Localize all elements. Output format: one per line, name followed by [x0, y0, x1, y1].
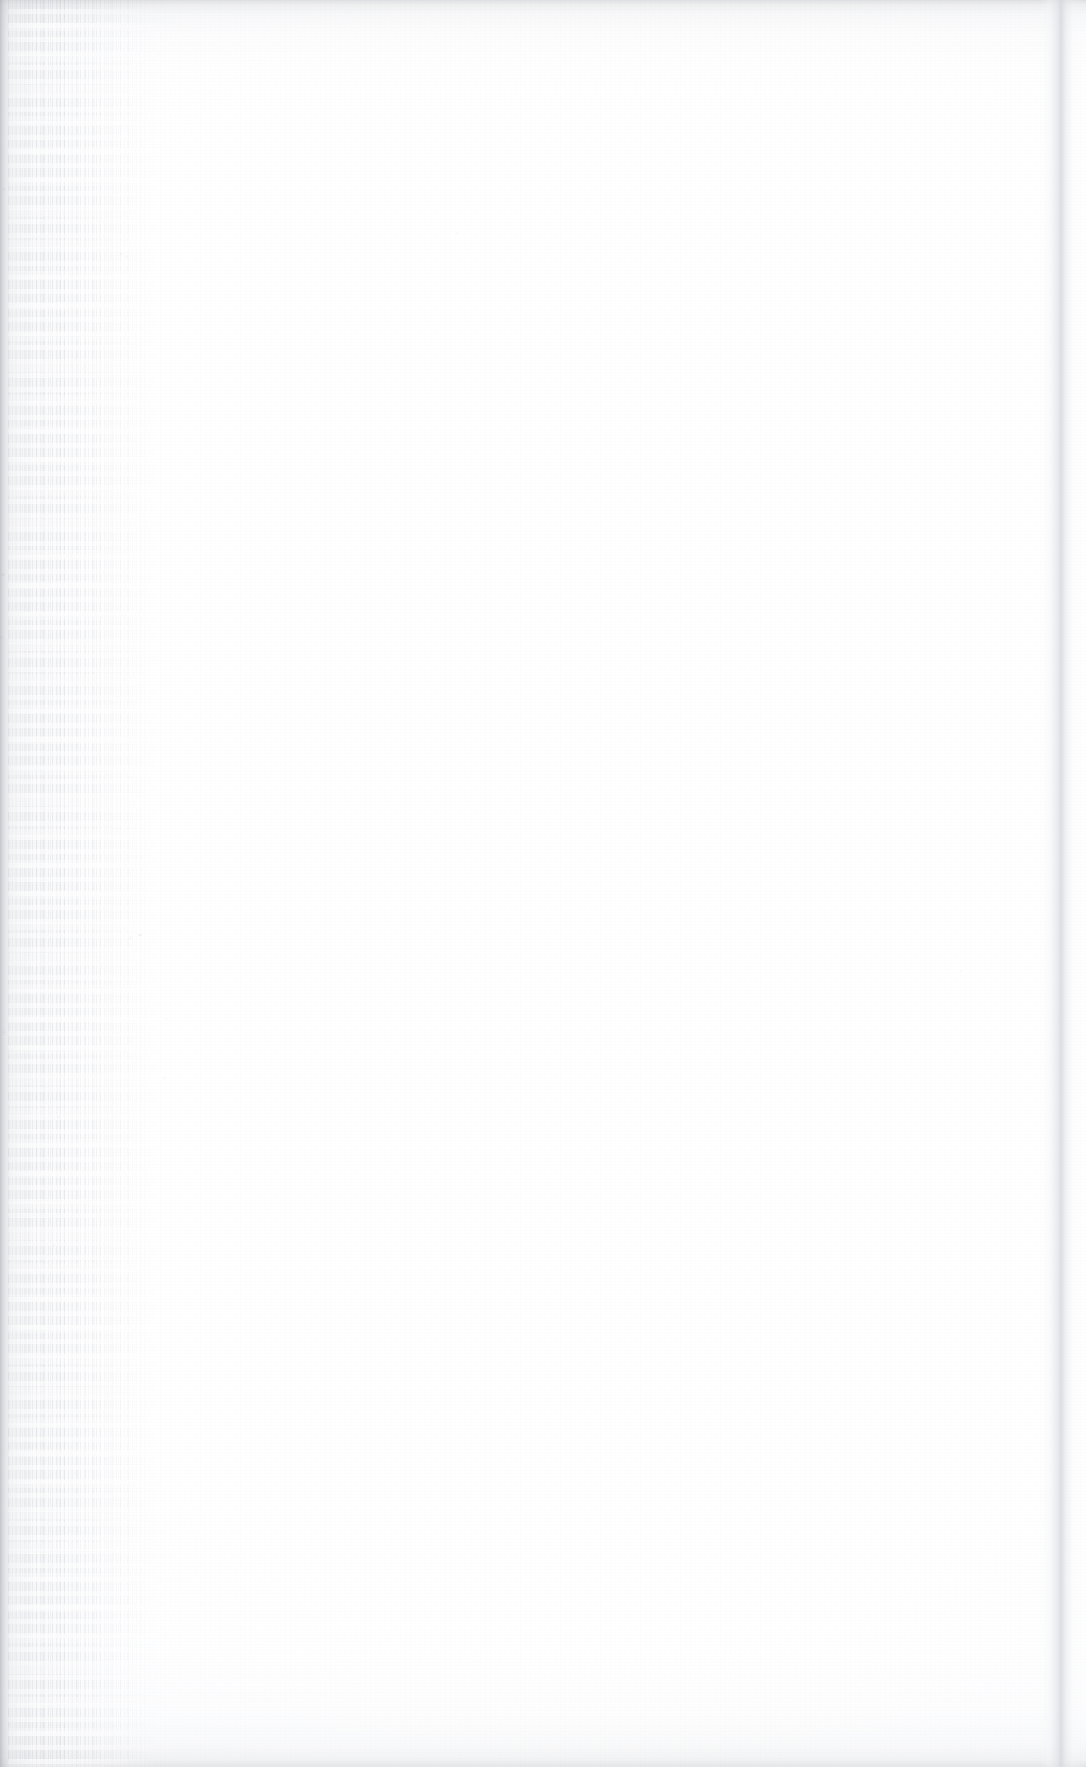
dust-speck	[0, 636, 4, 639]
dust-speck	[104, 1458, 107, 1460]
dust-speck	[126, 256, 128, 258]
bottom-edge-shadow	[0, 1652, 1086, 1767]
dust-speck	[2, 188, 6, 190]
top-edge-shadow	[0, 0, 1086, 105]
scanned-page	[0, 0, 1086, 1767]
binding-gutter-edge	[0, 0, 14, 1767]
dust-speck	[138, 934, 142, 936]
binding-gutter-shadow	[0, 0, 165, 1767]
dust-speck	[3, 1031, 6, 1033]
dust-speck	[129, 937, 132, 939]
vertical-scan-streaks	[8, 0, 158, 1767]
dust-speck	[57, 1116, 60, 1118]
page-content-area	[150, 150, 976, 1617]
dust-speck	[120, 253, 123, 255]
dust-speck	[52, 1244, 55, 1246]
dust-speck	[135, 856, 137, 858]
dust-speck	[1, 573, 5, 576]
right-page-edge-band	[1040, 0, 1086, 1767]
